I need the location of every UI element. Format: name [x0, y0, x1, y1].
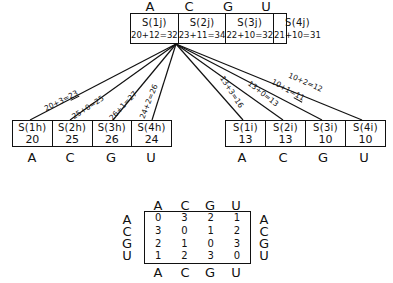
left-cell-3: S(3h) 26	[93, 121, 133, 146]
cell-value: 10	[319, 134, 333, 146]
cell-label: S(3i)	[313, 122, 338, 134]
right-cell-2: S(2i) 13	[266, 121, 306, 146]
matrix-cell: 0	[198, 238, 224, 251]
cell-label: S(1h)	[18, 122, 46, 134]
matrix-cell: 3	[224, 238, 250, 251]
cell-label: S(4i)	[353, 122, 378, 134]
cell-value: 10	[359, 134, 373, 146]
matrix-cell: 0	[171, 225, 197, 238]
right-cell-1: S(1i) 13	[226, 121, 266, 146]
matrix-cell: 3	[145, 225, 171, 238]
top-letter-c: C	[179, 0, 199, 13]
left-letter-g: G	[101, 151, 121, 164]
matrix-col-bottom-g: G	[200, 266, 220, 279]
matrix-col-bottom-u: U	[226, 266, 246, 279]
distance-matrix: 0 3 2 1 3 0 1 2 2 1 0 3 1 2 3 0	[144, 211, 251, 264]
right-letter-u: U	[354, 151, 374, 164]
top-cell-4: S(4j) 21+10=31	[274, 14, 321, 43]
matrix-cell: 1	[145, 250, 171, 263]
left-letter-a: A	[22, 151, 42, 164]
right-score-box: S(1i) 13 S(2i) 13 S(3i) 10 S(4i) 10	[225, 120, 386, 147]
right-cell-3: S(3i) 10	[306, 121, 346, 146]
cell-label: S(2i)	[273, 122, 298, 134]
matrix-cell: 2	[198, 212, 224, 225]
cell-value: 22+10=32	[226, 29, 273, 41]
cell-value: 24	[145, 134, 159, 146]
matrix-cell: 3	[198, 250, 224, 263]
cell-label: S(3j)	[237, 17, 262, 29]
cell-value: 20	[25, 134, 39, 146]
matrix-cell: 3	[171, 212, 197, 225]
cell-value: 21+10=31	[274, 29, 321, 41]
cell-label: S(1j)	[142, 17, 167, 29]
right-letter-a: A	[232, 151, 252, 164]
cell-label: S(1i)	[233, 122, 258, 134]
matrix-row-left-u: U	[117, 250, 137, 262]
cell-label: S(2j)	[190, 17, 215, 29]
cell-label: S(3h)	[98, 122, 126, 134]
cell-value: 20+12=32	[131, 29, 178, 41]
matrix-cell: 1	[171, 238, 197, 251]
matrix-cell: 2	[224, 225, 250, 238]
matrix-cell: 1	[198, 225, 224, 238]
cell-value: 26	[105, 134, 119, 146]
right-cell-4: S(4i) 10	[346, 121, 385, 146]
matrix-col-bottom-a: A	[148, 266, 168, 279]
top-cell-3: S(3j) 22+10=32	[226, 14, 274, 43]
cell-value: 23+11=34	[179, 29, 226, 41]
cell-label: S(4h)	[137, 122, 165, 134]
top-letter-u: U	[256, 0, 276, 13]
right-letter-g: G	[313, 151, 333, 164]
top-cell-2: S(2j) 23+11=34	[179, 14, 227, 43]
cell-label: S(2h)	[58, 122, 86, 134]
matrix-cell: 1	[224, 212, 250, 225]
left-score-box: S(1h) 20 S(2h) 25 S(3h) 26 S(4h) 24	[12, 120, 172, 147]
top-score-box: S(1j) 20+12=32 S(2j) 23+11=34 S(3j) 22+1…	[130, 13, 287, 44]
cell-value: 25	[65, 134, 79, 146]
matrix-row-right-u: U	[254, 250, 274, 262]
right-letter-c: C	[273, 151, 293, 164]
left-letter-u: U	[141, 151, 161, 164]
matrix-col-bottom-c: C	[175, 266, 195, 279]
top-cell-1: S(1j) 20+12=32	[131, 14, 179, 43]
cell-value: 13	[279, 134, 293, 146]
left-cell-4: S(4h) 24	[132, 121, 171, 146]
top-letter-g: G	[218, 0, 238, 13]
cell-value: 13	[239, 134, 253, 146]
left-cell-2: S(2h) 25	[53, 121, 93, 146]
left-letter-c: C	[60, 151, 80, 164]
matrix-cell: 2	[171, 250, 197, 263]
matrix-cell: 2	[145, 238, 171, 251]
matrix-cell: 0	[224, 250, 250, 263]
cell-label: S(4j)	[285, 17, 310, 29]
matrix-cell: 0	[145, 212, 171, 225]
left-cell-1: S(1h) 20	[13, 121, 53, 146]
top-letter-a: A	[140, 0, 160, 13]
